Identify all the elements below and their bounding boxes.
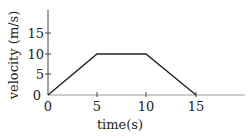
y-axis-label: velocity (m/s) <box>6 11 21 101</box>
x-tick-label: 10 <box>138 99 155 114</box>
y-tick-labels: 0 5 10 15 <box>27 26 44 103</box>
y-tick-label: 15 <box>27 26 44 41</box>
x-tick-label: 0 <box>44 99 52 114</box>
x-tick-labels: 0 5 10 15 <box>44 99 204 114</box>
x-tick-label: 5 <box>93 99 101 114</box>
velocity-line <box>48 54 196 95</box>
x-axis-label: time(s) <box>97 117 143 132</box>
y-tick-label: 5 <box>36 67 44 82</box>
y-tick-label: 10 <box>27 47 44 62</box>
y-tick-label: 0 <box>33 88 41 103</box>
velocity-time-chart: 0 5 10 15 0 5 10 15 time(s) velocity (m/… <box>0 0 250 138</box>
x-tick-label: 15 <box>188 99 205 114</box>
